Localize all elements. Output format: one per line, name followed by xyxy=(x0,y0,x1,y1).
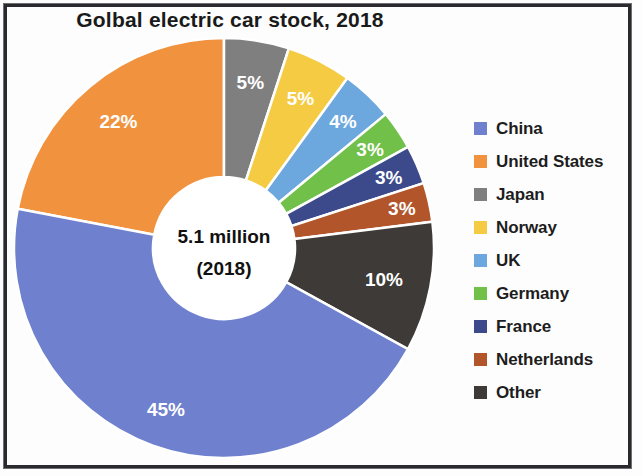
legend-swatch-icon xyxy=(474,254,487,267)
legend-item-label: Norway xyxy=(496,218,557,238)
legend-item-other[interactable]: Other xyxy=(474,376,634,409)
slice-value-label-germany: 3% xyxy=(356,139,384,160)
slice-value-label-france: 3% xyxy=(375,167,403,188)
legend-item-netherlands[interactable]: Netherlands xyxy=(474,343,634,376)
center-year-label: (2018) xyxy=(197,258,252,279)
legend-swatch-icon xyxy=(474,221,487,234)
donut-center-hole xyxy=(153,177,295,319)
legend-item-uk[interactable]: UK xyxy=(474,244,634,277)
donut-chart-svg: 5.1 million (2018) 22%5%5%4%3%3%3%10%45% xyxy=(13,37,435,459)
legend-item-france[interactable]: France xyxy=(474,310,634,343)
legend-item-label: Other xyxy=(496,383,541,403)
chart-legend: ChinaUnited StatesJapanNorwayUKGermanyFr… xyxy=(474,112,634,409)
legend-item-germany[interactable]: Germany xyxy=(474,277,634,310)
slice-value-label-united-states: 22% xyxy=(99,111,137,132)
donut-chart: 5.1 million (2018) 22%5%5%4%3%3%3%10%45% xyxy=(13,37,435,459)
legend-item-china[interactable]: China xyxy=(474,112,634,145)
legend-swatch-icon xyxy=(474,386,487,399)
legend-swatch-icon xyxy=(474,155,487,168)
slice-value-label-netherlands: 3% xyxy=(388,198,416,219)
slice-value-label-uk: 4% xyxy=(329,111,357,132)
chart-page: Golbal electric car stock, 2018 5.1 mill… xyxy=(0,0,642,476)
legend-item-label: France xyxy=(496,317,551,337)
legend-swatch-icon xyxy=(474,320,487,333)
legend-item-norway[interactable]: Norway xyxy=(474,211,634,244)
legend-swatch-icon xyxy=(474,188,487,201)
chart-title: Golbal electric car stock, 2018 xyxy=(0,8,460,32)
slice-value-label-japan: 5% xyxy=(237,72,265,93)
slice-value-label-other: 10% xyxy=(365,269,403,290)
legend-item-label: Japan xyxy=(496,185,545,205)
legend-item-label: United States xyxy=(496,152,603,172)
legend-swatch-icon xyxy=(474,287,487,300)
legend-item-japan[interactable]: Japan xyxy=(474,178,634,211)
legend-item-united-states[interactable]: United States xyxy=(474,145,634,178)
legend-item-label: UK xyxy=(496,251,520,271)
legend-item-label: Netherlands xyxy=(496,350,593,370)
legend-swatch-icon xyxy=(474,122,487,135)
legend-item-label: China xyxy=(496,119,543,139)
slice-value-label-norway: 5% xyxy=(287,88,315,109)
legend-item-label: Germany xyxy=(496,284,569,304)
legend-swatch-icon xyxy=(474,353,487,366)
slice-value-label-china: 45% xyxy=(147,399,185,420)
center-total-label: 5.1 million xyxy=(178,226,271,247)
